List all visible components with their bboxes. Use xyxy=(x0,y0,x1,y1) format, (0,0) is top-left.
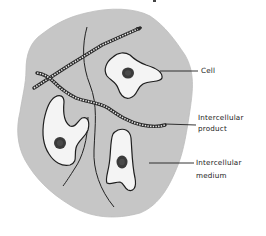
label-intercellular-product-line1: Intercellular xyxy=(198,113,244,123)
label-intercellular-medium-line1: Intercellular xyxy=(196,158,242,168)
label-cell: Cell xyxy=(201,66,215,76)
tissue-region xyxy=(18,9,193,217)
label-intercellular-product-line2: product xyxy=(198,124,227,134)
label-intercellular-medium-line2: medium xyxy=(196,171,227,181)
diagram-canvas: Cell Intercellular product Intercellular… xyxy=(0,0,266,236)
